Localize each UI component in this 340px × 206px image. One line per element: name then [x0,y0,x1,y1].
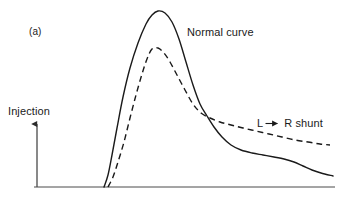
shunt-label-left: L [257,118,263,129]
shunt-label-right: R shunt [284,118,323,129]
panel-label: (a) [29,27,42,37]
annotation-normal-curve: Normal curve [187,27,254,38]
y-axis-label-injection: Injection [8,106,50,117]
dilution-curve-plot [0,0,340,206]
annotation-shunt: L R shunt [257,118,323,129]
figure-panel-a: (a) Injection Normal curve L R shunt [0,0,340,206]
right-arrow-icon [265,119,282,128]
